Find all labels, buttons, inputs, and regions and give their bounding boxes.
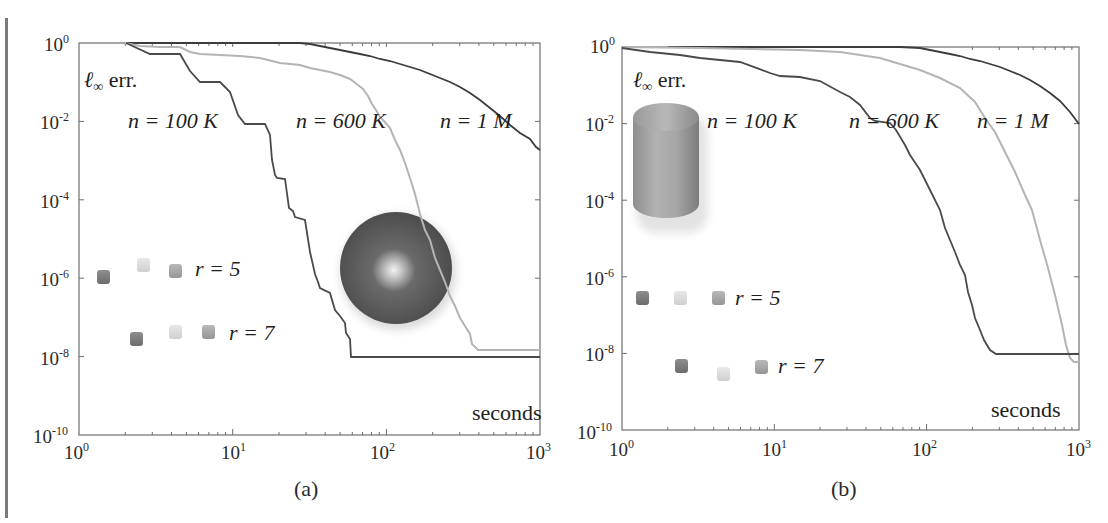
label-n-600k: n = 600 K: [849, 108, 940, 133]
y-tick-1e-10: 10-10: [33, 424, 68, 447]
swatch-n1m-r5: [169, 264, 182, 278]
swatch-n600k-r7: [169, 325, 182, 339]
x-axis-ticks: [125, 43, 533, 435]
y-tick-1e-8: 10-8: [585, 342, 614, 365]
x-tick-1e2: 102: [912, 437, 937, 460]
y-tick-1e-8: 10-8: [40, 346, 69, 369]
swatch-n1m-r7: [202, 325, 215, 339]
series-n-1m: [126, 43, 540, 150]
y-tick-1e0: 100: [44, 32, 69, 55]
swatch-n100k-r7: [130, 332, 143, 346]
caption-a: (a): [294, 476, 318, 501]
swatch-n100k-r5: [636, 291, 649, 305]
legend-r5: r = 5: [636, 285, 780, 310]
panel-a: 100 10-2 10-4 10-6 10-8 10-10 100 101 10…: [33, 32, 551, 501]
swatch-n600k-r7: [717, 367, 730, 381]
y-tick-labels: 100 10-2 10-4 10-6 10-8 10-10: [577, 34, 615, 443]
swatch-n100k-r5: [97, 270, 110, 284]
y-tick-1e-2: 10-2: [40, 110, 69, 133]
x-tick-1e1: 101: [762, 437, 787, 460]
swatch-n1m-r7: [755, 360, 768, 374]
sphere-inset-icon: [340, 212, 456, 330]
x-tick-1e2: 102: [370, 440, 395, 463]
figure: 100 10-2 10-4 10-6 10-8 10-10 100 101 10…: [0, 0, 1108, 523]
x-axis-label: seconds: [991, 397, 1061, 422]
swatch-n600k-r5: [674, 291, 687, 305]
label-r7: r = 7: [229, 320, 275, 345]
series-n-100k: [126, 43, 540, 357]
legend-r5: r = 5: [97, 256, 240, 284]
y-tick-1e-4: 10-4: [585, 189, 614, 212]
swatch-n100k-r7: [675, 359, 688, 373]
x-tick-labels: 100 101 102 103: [64, 440, 551, 463]
y-tick-labels: 100 10-2 10-4 10-6 10-8 10-10: [33, 32, 69, 447]
x-tick-labels: 100 101 102 103: [609, 437, 1091, 460]
y-tick-1e0: 100: [590, 34, 615, 57]
legend-r7: r = 7: [675, 353, 824, 381]
label-n-100k: n = 100 K: [707, 108, 798, 133]
legend-r7: r = 7: [130, 320, 275, 346]
label-r5: r = 5: [195, 256, 240, 281]
caption-b: (b): [831, 476, 857, 501]
x-axis-label: seconds: [472, 400, 542, 425]
swatch-n1m-r5: [712, 291, 725, 305]
label-n-1m: n = 1 M: [977, 108, 1050, 133]
x-tick-1e1: 101: [221, 440, 246, 463]
y-axis-label: ℓ∞ err.: [633, 67, 686, 94]
x-tick-1e3: 103: [1066, 437, 1091, 460]
y-tick-1e-2: 10-2: [585, 112, 614, 135]
y-tick-1e-6: 10-6: [40, 267, 69, 290]
label-r7: r = 7: [778, 353, 824, 378]
x-tick-1e0: 100: [609, 437, 634, 460]
label-n-600k: n = 600 K: [296, 108, 387, 133]
swatch-n600k-r5: [137, 258, 150, 272]
y-tick-1e-10: 10-10: [577, 420, 612, 443]
y-axis-ticks: [79, 121, 540, 356]
plot-frame: [79, 43, 540, 435]
plot-frame: [622, 47, 1079, 430]
x-tick-1e0: 100: [64, 440, 89, 463]
label-n-100k: n = 100 K: [128, 108, 219, 133]
chart-canvas: 100 10-2 10-4 10-6 10-8 10-10 100 101 10…: [0, 0, 1108, 523]
panel-b: 100 10-2 10-4 10-6 10-8 10-10 100 101 10…: [577, 34, 1091, 501]
y-axis-label: ℓ∞ err.: [84, 67, 137, 94]
y-tick-1e-6: 10-6: [585, 266, 614, 289]
x-tick-1e3: 103: [526, 440, 551, 463]
label-r5: r = 5: [735, 285, 780, 310]
label-n-1m: n = 1 M: [440, 108, 513, 133]
y-tick-1e-4: 10-4: [40, 189, 69, 212]
cylinder-inset-icon: [633, 103, 708, 233]
